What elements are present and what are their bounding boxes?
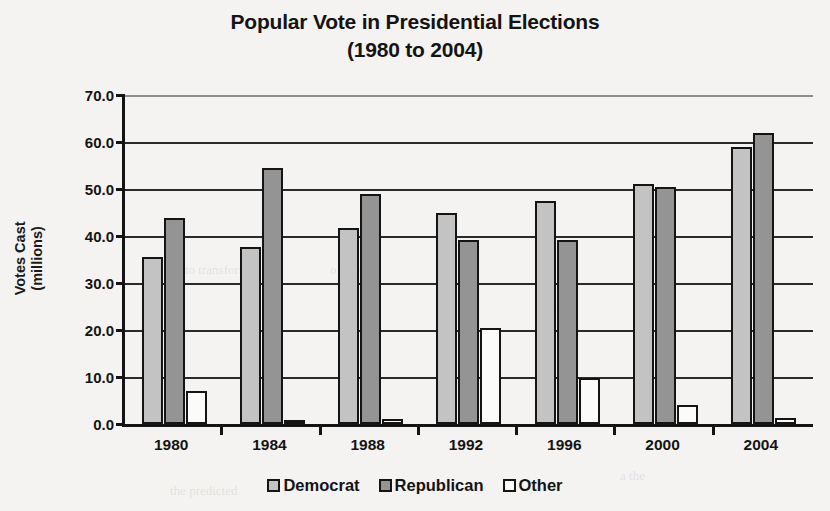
x-axis-tick-mark — [417, 424, 420, 435]
legend-swatch-icon — [379, 479, 392, 492]
x-axis-tick-labels: 1980198419881992199620002004 — [122, 436, 810, 454]
y-axis-tick-mark — [116, 188, 125, 191]
legend-swatch-icon — [267, 479, 280, 492]
bar-democrat-1980[interactable] — [142, 257, 163, 424]
bar-democrat-1984[interactable] — [240, 247, 261, 424]
legend-item-other[interactable]: Other — [503, 476, 563, 495]
x-axis-label-1980: 1980 — [122, 436, 220, 454]
bar-republican-1980[interactable] — [164, 218, 185, 424]
bar-republican-1988[interactable] — [360, 194, 381, 424]
bar-other-1988[interactable] — [382, 419, 403, 424]
bar-democrat-1988[interactable] — [338, 228, 359, 424]
bar-republican-2000[interactable] — [655, 187, 676, 424]
x-axis-label-2004: 2004 — [712, 436, 810, 454]
plot-area — [122, 95, 813, 427]
legend-item-democrat[interactable]: Democrat — [267, 476, 359, 495]
y-axis-tick-label: 0.0 — [36, 416, 114, 433]
x-axis-tick-mark — [613, 424, 616, 435]
y-axis-tick-mark — [116, 376, 125, 379]
x-axis-label-2000: 2000 — [613, 436, 711, 454]
x-axis-label-1996: 1996 — [515, 436, 613, 454]
bar-democrat-2000[interactable] — [633, 184, 654, 424]
page-title: Popular Vote in Presidential Elections (… — [0, 0, 830, 63]
bar-group — [322, 95, 420, 424]
bar-group — [223, 95, 321, 424]
x-axis-tick-mark — [319, 424, 322, 435]
bar-groups — [125, 95, 813, 424]
x-axis-tick-mark — [220, 424, 223, 435]
x-axis-label-1984: 1984 — [220, 436, 318, 454]
bar-other-1992[interactable] — [480, 328, 501, 424]
bar-democrat-2004[interactable] — [731, 147, 752, 424]
legend-label: Democrat — [283, 476, 359, 495]
legend-item-republican[interactable]: Republican — [379, 476, 484, 495]
y-axis-tick-mark — [116, 235, 125, 238]
bar-other-1996[interactable] — [579, 378, 600, 424]
chart-title-line2: (1980 to 2004) — [0, 36, 830, 64]
y-axis-tick-label: 70.0 — [36, 87, 114, 104]
bar-other-1984[interactable] — [284, 420, 305, 424]
bar-democrat-1992[interactable] — [436, 213, 457, 424]
legend-label: Republican — [395, 476, 484, 495]
bar-other-1980[interactable] — [186, 391, 207, 424]
x-axis-tick-mark — [712, 424, 715, 435]
x-axis-label-1992: 1992 — [417, 436, 515, 454]
bar-democrat-1996[interactable] — [535, 201, 556, 424]
y-axis-tick-label: 20.0 — [36, 322, 114, 339]
y-axis-tick-label: 10.0 — [36, 369, 114, 386]
y-axis-tick-label: 50.0 — [36, 181, 114, 198]
chart-container: Votes Cast (millions) 70.060.050.040.030… — [0, 76, 830, 511]
legend-label: Other — [519, 476, 563, 495]
y-axis-tick-mark — [116, 141, 125, 144]
bar-group — [420, 95, 518, 424]
bar-republican-1996[interactable] — [557, 240, 578, 424]
bar-other-2004[interactable] — [775, 418, 796, 424]
x-axis-tick-marks — [122, 424, 810, 436]
bar-group — [616, 95, 714, 424]
chart-title-line1: Popular Vote in Presidential Elections — [231, 10, 600, 33]
bar-group — [125, 95, 223, 424]
bar-other-2000[interactable] — [677, 405, 698, 424]
y-axis-tick-labels: 70.060.050.040.030.020.010.00.0 — [36, 76, 114, 424]
bar-republican-2004[interactable] — [753, 133, 774, 424]
y-axis-tick-mark — [116, 329, 125, 332]
bar-group — [715, 95, 813, 424]
bar-republican-1992[interactable] — [458, 240, 479, 424]
bar-group — [518, 95, 616, 424]
chart-legend: DemocratRepublicanOther — [0, 476, 830, 495]
y-axis-tick-mark — [116, 94, 125, 97]
y-axis-tick-label: 30.0 — [36, 275, 114, 292]
y-axis-title-line1: Votes Cast — [12, 221, 28, 295]
y-axis-tick-label: 40.0 — [36, 228, 114, 245]
y-axis-tick-mark — [116, 282, 125, 285]
x-axis-tick-mark — [515, 424, 518, 435]
legend-swatch-icon — [503, 479, 516, 492]
x-axis-label-1988: 1988 — [319, 436, 417, 454]
y-axis-tick-label: 60.0 — [36, 134, 114, 151]
bar-republican-1984[interactable] — [262, 168, 283, 424]
plot-inner — [125, 95, 813, 424]
